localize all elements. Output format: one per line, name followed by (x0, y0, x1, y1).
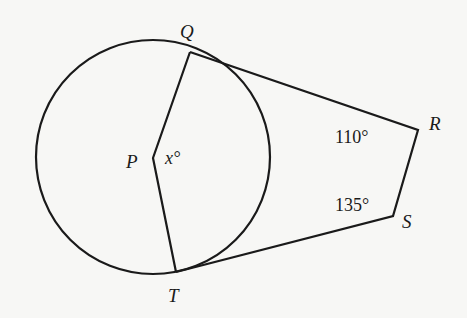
label-t: T (168, 285, 180, 306)
diagram-svg: Q P T R S x° 110° 135° (0, 0, 467, 318)
label-s: S (402, 211, 412, 232)
geometry-diagram: Q P T R S x° 110° 135° (0, 0, 467, 318)
label-q: Q (180, 21, 194, 42)
angle-p-label: x° (164, 148, 180, 168)
tangent-quadrilateral (176, 52, 418, 272)
angle-r-label: 110° (335, 127, 369, 147)
label-p: P (125, 151, 138, 172)
angle-s-label: 135° (335, 195, 369, 215)
label-r: R (428, 113, 441, 134)
